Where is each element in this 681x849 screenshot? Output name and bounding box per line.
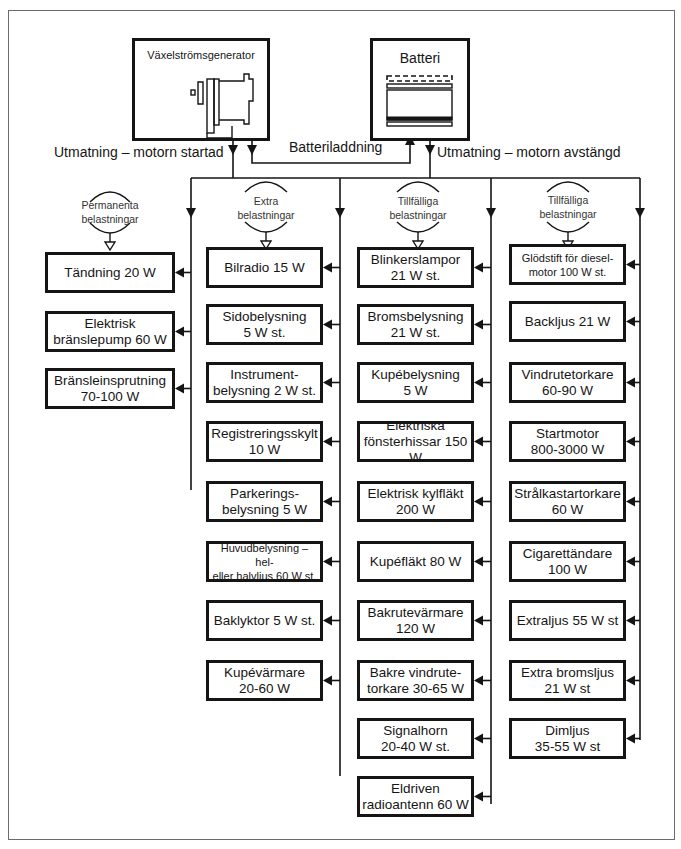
load-box: Dimljus 35-55 W st [509,718,626,759]
load-box: Glödstift för diesel- motor 100 W st. [509,244,626,285]
load-box: Eldriven radioantenn 60 W [357,776,474,817]
load-box: Extraljus 55 W st [509,600,626,641]
load-box: Startmotor 800-3000 W [509,421,626,462]
load-box: Huvudbelysning – hel- eller halvljus 60 … [206,541,323,582]
load-box: Backljus 21 W [509,301,626,342]
load-box: Registreringsskylt 10 W [206,421,323,462]
load-box: Cigarettändare 100 W [509,541,626,582]
load-box: Tändning 20 W [45,252,175,293]
load-box: Elektrisk kylfläkt 200 W [357,481,474,522]
load-box: Bakrutevärmare 120 W [357,600,474,641]
load-box: Bakre vindrute- torkare 30-65 W [357,660,474,701]
group-label-temporary-2: Tillfälliga belastningar [523,193,613,221]
load-box: Blinkerslampor 21 W st. [357,247,474,288]
group-label-temporary-1: Tillfälliga belastningar [373,194,463,222]
load-box: Bilradio 15 W [206,247,323,288]
load-box: Bränsleinsprutning 70-100 W [45,368,175,409]
load-box: Baklyktor 5 W st. [206,600,323,641]
load-box: Elektriska fönsterhissar 150 W [357,421,474,462]
alternator-icon [132,38,270,141]
load-box: Elektrisk bränslepump 60 W [45,311,175,352]
load-box: Sidobelysning 5 W st. [206,304,323,345]
alternator-box: Växelströmsgenerator [132,38,270,141]
group-label-permanent: Permanenta belastningar [65,198,155,226]
load-box: Strålkastartorkare 60 W [509,481,626,522]
load-box: Kupévärmare 20-60 W [206,660,323,701]
load-box: Extra bromsljus 21 W st [509,660,626,701]
load-box: Vindrutetorkare 60-90 W [509,362,626,403]
battery-box: Batteri [370,38,470,141]
load-box: Parkerings- belysning 5 W [206,481,323,522]
output-engine-off-label: Utmatning – motorn avstängd [437,144,621,160]
load-box: Instrument- belysning 2 W st. [206,362,323,403]
output-engine-running-label: Utmatning – motorn startad [54,144,224,160]
load-box: Bromsbelysning 21 W st. [357,304,474,345]
load-box: Signalhorn 20-40 W st. [357,718,474,759]
load-box: Kupéfläkt 80 W [357,541,474,582]
battery-icon [370,38,470,141]
group-label-extra: Extra belastningar [221,194,311,222]
battery-charging-label: Batteriladdning [289,139,382,155]
load-box: Kupébelysning 5 W [357,362,474,403]
